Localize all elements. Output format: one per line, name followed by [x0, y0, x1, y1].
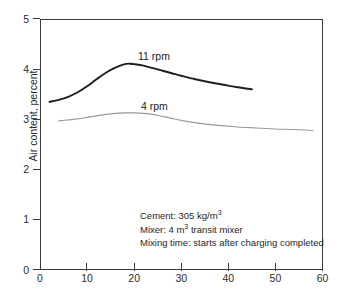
annotation-line-1: Cement: 305 kg/m3 — [140, 209, 324, 223]
chart-annotation-block: Cement: 305 kg/m3Mixer: 4 m3 transit mix… — [140, 209, 324, 250]
series-label-11-rpm: 11 rpm — [138, 51, 170, 62]
annotation-line-2-tail: transit mixer — [188, 224, 242, 235]
series-label-4-rpm: 4 rpm — [141, 101, 168, 112]
series-curve-11-rpm — [49, 64, 251, 102]
chart-figure: 012345 Air content, percent 010203040506… — [0, 0, 340, 297]
annotation-line-3-text: Mixing time: starts after charging compl… — [140, 237, 324, 248]
annotation-line-1-text: Cement: 305 kg/m — [140, 210, 218, 221]
annotation-line-1-superscript: 3 — [218, 209, 222, 216]
data-curves — [0, 0, 340, 297]
annotation-line-3: Mixing time: starts after charging compl… — [140, 236, 324, 250]
series-curve-4-rpm — [59, 113, 313, 131]
annotation-line-2: Mixer: 4 m3 transit mixer — [140, 223, 324, 237]
annotation-line-2-text: Mixer: 4 m — [140, 224, 184, 235]
